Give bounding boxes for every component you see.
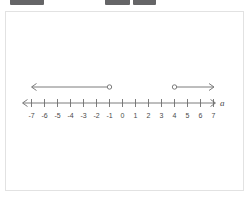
tick-label: 7 (212, 112, 216, 119)
left-ray-open-circle (107, 85, 111, 89)
tick-label: 3 (160, 112, 164, 119)
axis-variable-label: a (220, 98, 225, 108)
right-ray-open-circle (172, 85, 176, 89)
tick-label: -7 (28, 112, 34, 119)
tick-label: 0 (121, 112, 125, 119)
chrome-block-1[interactable] (105, 0, 130, 5)
number-line-figure: -7 -6 -5 -4 -3 -2 -1 0 1 2 3 4 5 6 7 a (6, 12, 243, 190)
tick-label: -2 (93, 112, 99, 119)
tick-labels-group: -7 -6 -5 -4 -3 -2 -1 0 1 2 3 4 5 6 7 (28, 112, 215, 119)
figure-card: -7 -6 -5 -4 -3 -2 -1 0 1 2 3 4 5 6 7 a (5, 11, 244, 191)
chrome-block-0[interactable] (10, 0, 44, 5)
tick-label: -3 (80, 112, 86, 119)
chrome-block-2[interactable] (133, 0, 156, 5)
tick-label: -4 (67, 112, 73, 119)
left-ray-group (32, 84, 112, 91)
tick-label: -1 (106, 112, 112, 119)
tick-label: -5 (54, 112, 60, 119)
right-ray-group (172, 84, 214, 91)
tick-label: 6 (199, 112, 203, 119)
tick-label: 4 (173, 112, 177, 119)
tick-label: 2 (147, 112, 151, 119)
top-chrome-strip (0, 0, 251, 7)
tick-label: 1 (134, 112, 138, 119)
tick-label: -6 (41, 112, 47, 119)
axis-group (23, 100, 216, 107)
tick-label: 5 (186, 112, 190, 119)
